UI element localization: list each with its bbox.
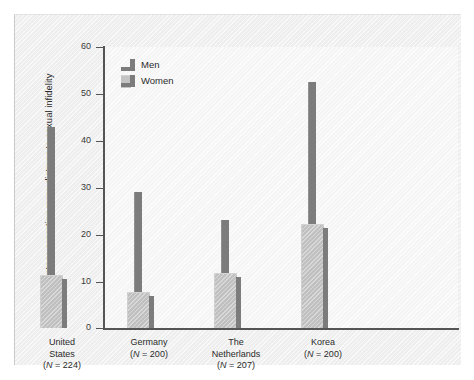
bar-women-edge-united-states (62, 279, 67, 328)
x-category-line2: (N = 200) (268, 349, 378, 361)
legend-item-women: Women (119, 74, 239, 90)
bar-women-germany (127, 292, 150, 328)
y-tick-20 (96, 235, 103, 236)
y-tick-60 (96, 47, 103, 48)
legend-label-men: Men (141, 59, 159, 70)
bar-women-netherlands (214, 273, 237, 328)
legend-item-men: Men (119, 58, 239, 74)
men-swatch-icon (121, 59, 135, 71)
y-tick-10 (96, 282, 103, 283)
y-tick-label-20: 20 (57, 230, 91, 239)
y-tick-30 (96, 188, 103, 189)
bar-women-united-states (40, 275, 63, 328)
y-tick-40 (96, 141, 103, 142)
y-tick-label-40: 40 (57, 136, 91, 145)
y-tick-label-30: 30 (57, 183, 91, 192)
chart-panel: 60 50 40 30 20 10 0 Percentage reporting… (14, 14, 461, 365)
bar-women-edge-korea (323, 228, 328, 328)
bar-women-korea (301, 224, 324, 328)
x-category-line1: Korea (268, 337, 378, 349)
y-tick-label-60: 60 (57, 42, 91, 51)
y-tick-label-50: 50 (57, 89, 91, 98)
y-tick-0 (96, 328, 103, 329)
legend-label-women: Women (141, 75, 174, 86)
y-tick-50 (96, 94, 103, 95)
y-axis-line (103, 46, 105, 329)
chart-legend: Men Women (119, 58, 239, 90)
x-category-label-korea: Korea (N = 200) (268, 337, 378, 360)
bar-women-edge-netherlands (236, 277, 241, 328)
x-category-line3: (N = 207) (181, 360, 291, 372)
figure-canvas: 60 50 40 30 20 10 0 Percentage reporting… (0, 0, 474, 380)
x-category-line3: (N = 224) (7, 360, 117, 372)
x-axis-line (103, 328, 459, 330)
bar-women-edge-germany (149, 296, 154, 328)
women-swatch-icon (121, 75, 135, 87)
